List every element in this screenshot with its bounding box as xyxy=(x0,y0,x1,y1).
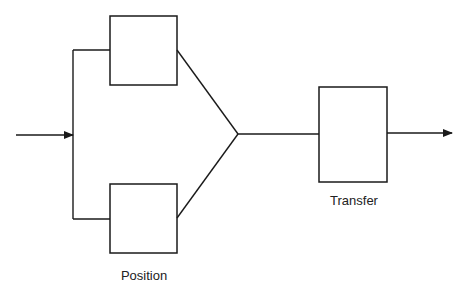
block-diagram: Transfer Position xyxy=(0,0,465,295)
position-box-bottom xyxy=(110,184,177,253)
transfer-box xyxy=(319,87,387,182)
merge-line-bottom xyxy=(177,134,238,218)
position-box-top xyxy=(110,16,177,85)
merge-line-top xyxy=(177,50,238,134)
transfer-label: Transfer xyxy=(330,193,379,208)
position-label: Position xyxy=(121,268,167,283)
